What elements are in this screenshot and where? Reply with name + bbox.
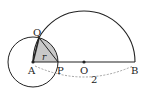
- point-O: [82, 60, 85, 63]
- label-A: A: [27, 65, 36, 76]
- label-r: r: [42, 52, 47, 62]
- geometry-diagram: A P O B Q r 2: [0, 0, 143, 96]
- label-Q: Q: [33, 27, 41, 38]
- label-P: P: [57, 65, 64, 76]
- label-O: O: [80, 65, 88, 76]
- label-length-2: 2: [91, 74, 97, 85]
- point-A: [31, 60, 34, 63]
- label-B: B: [131, 65, 138, 76]
